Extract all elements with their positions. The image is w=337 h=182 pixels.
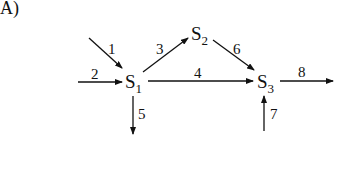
- edge-5: 5: [133, 96, 146, 134]
- node-s3: S3: [257, 71, 274, 96]
- reaction-network-diagram: A) S1 S2 S3 1 2 3 4 5 6 7: [0, 0, 337, 182]
- svg-text:8: 8: [298, 64, 306, 80]
- edge-2: 2: [78, 66, 122, 82]
- edge-8: 8: [280, 64, 333, 81]
- svg-text:2: 2: [91, 66, 99, 82]
- edge-7: 7: [264, 96, 278, 131]
- svg-text:3: 3: [156, 41, 164, 57]
- node-s1: S1: [125, 71, 142, 96]
- svg-text:S3: S3: [257, 71, 274, 96]
- svg-text:5: 5: [138, 106, 146, 122]
- svg-text:S2: S2: [191, 23, 208, 48]
- svg-text:4: 4: [194, 65, 202, 81]
- svg-text:S1: S1: [125, 71, 142, 96]
- edge-4: 4: [148, 65, 253, 81]
- svg-text:1: 1: [108, 41, 116, 57]
- edge-6: 6: [213, 40, 254, 70]
- edge-1: 1: [89, 38, 122, 68]
- node-s2: S2: [191, 23, 208, 48]
- edge-3: 3: [143, 38, 188, 72]
- svg-text:7: 7: [270, 106, 278, 122]
- panel-label: A): [0, 0, 19, 19]
- svg-text:6: 6: [233, 41, 241, 57]
